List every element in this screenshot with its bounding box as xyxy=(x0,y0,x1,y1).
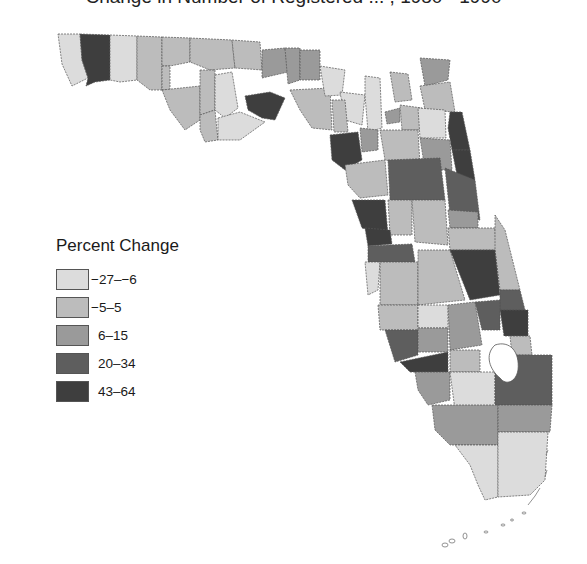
county-monroe-mainland xyxy=(455,445,498,500)
county-st-lucie xyxy=(500,310,528,336)
county-wakulla xyxy=(245,92,285,120)
county-hendry xyxy=(450,372,495,410)
county-clay xyxy=(418,108,446,138)
county-indian-river xyxy=(500,290,525,310)
county-dade xyxy=(498,432,548,497)
legend-swatch xyxy=(56,269,89,290)
county-liberty xyxy=(215,72,238,118)
county-marion xyxy=(388,158,445,200)
county-lake xyxy=(412,200,448,245)
county-collier xyxy=(432,405,498,445)
county-manatee xyxy=(378,305,418,330)
county-washington xyxy=(162,66,170,90)
county-walton xyxy=(137,36,162,90)
legend-swatch xyxy=(56,381,89,402)
county-desoto xyxy=(418,328,448,352)
county-holmes xyxy=(162,37,190,66)
county-sumter xyxy=(388,200,412,235)
county-st-johns xyxy=(448,112,470,150)
county-gilchrist xyxy=(360,128,378,152)
county-pinellas xyxy=(365,262,380,295)
county-duval xyxy=(420,82,455,112)
county-okaloosa xyxy=(110,35,137,82)
county-hernando xyxy=(365,228,392,246)
county-pasco xyxy=(368,244,415,262)
county-gulf xyxy=(200,110,218,142)
legend-label: 20–34 xyxy=(98,356,136,371)
legend-label: −5–5 xyxy=(91,300,121,315)
county-orange xyxy=(448,228,496,250)
county-brevard xyxy=(495,215,520,290)
county-jackson xyxy=(190,38,235,70)
legend-item: 6–15 xyxy=(56,325,179,346)
county-gadsden xyxy=(232,40,262,70)
legend: Percent Change −27–−6 −5–5 6–15 20–34 43… xyxy=(56,236,179,409)
county-jefferson xyxy=(285,48,300,84)
legend-item: 43–64 xyxy=(56,381,179,402)
county-madison xyxy=(300,50,320,80)
county-levy xyxy=(345,160,388,198)
legend-item: −27–−6 xyxy=(56,269,179,290)
county-glades xyxy=(450,350,480,372)
legend-swatch xyxy=(56,353,89,374)
county-calhoun xyxy=(200,70,215,115)
county-union xyxy=(385,108,400,124)
county-seminole xyxy=(448,210,478,228)
legend-label: 43–64 xyxy=(98,384,136,399)
county-bay xyxy=(162,86,200,130)
legend-swatch xyxy=(56,325,89,346)
county-hardee xyxy=(418,305,448,328)
county-nassau xyxy=(420,58,450,86)
legend-item: −5–5 xyxy=(56,297,179,318)
legend-item: 20–34 xyxy=(56,353,179,374)
legend-label: 6–15 xyxy=(98,328,128,343)
county-columbia xyxy=(365,76,382,132)
county-broward xyxy=(498,405,552,432)
county-baker xyxy=(390,72,412,102)
county-sarasota xyxy=(385,330,418,362)
county-lee xyxy=(415,372,450,405)
county-franklin xyxy=(218,112,265,140)
legend-swatch xyxy=(56,297,89,318)
county-hillsborough xyxy=(380,262,418,305)
legend-label: −27–−6 xyxy=(91,272,137,287)
county-leon xyxy=(262,48,288,78)
legend-title: Percent Change xyxy=(56,236,179,256)
